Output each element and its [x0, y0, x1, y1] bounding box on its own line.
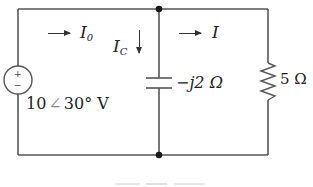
caption-remnant — [115, 181, 205, 187]
node-bottom — [156, 152, 163, 159]
source-angle: 30° — [64, 94, 92, 113]
current-i0-subscript: 0 — [87, 32, 93, 43]
resistor-icon — [261, 63, 275, 100]
capacitor-icon — [146, 78, 172, 88]
circuit-diagram — [0, 0, 313, 187]
current-i0-symbol: I — [80, 22, 87, 42]
current-i0-label: I0 — [80, 24, 93, 43]
current-i-symbol: I — [212, 22, 219, 42]
source-minus-sign: − — [14, 81, 22, 90]
arrow-down-icon — [139, 30, 140, 53]
arrow-right-icon — [179, 33, 201, 34]
source-magnitude: 10 — [26, 94, 46, 113]
wires — [18, 9, 268, 155]
current-ic-label: IC — [113, 38, 127, 57]
capacitor-impedance-label: −j2 Ω — [176, 75, 223, 91]
resistor-value-label: 5 Ω — [280, 72, 307, 87]
arrow-right-icon — [48, 33, 70, 34]
source-unit: V — [97, 94, 109, 113]
node-top — [156, 6, 163, 13]
current-i-label: I — [212, 24, 219, 41]
source-value-label: 10∠30° V — [26, 96, 109, 112]
current-ic-subscript: C — [120, 46, 128, 57]
source-plus-sign: + — [14, 70, 22, 79]
current-ic-symbol: I — [113, 36, 120, 56]
angle-symbol: ∠ — [48, 94, 61, 113]
